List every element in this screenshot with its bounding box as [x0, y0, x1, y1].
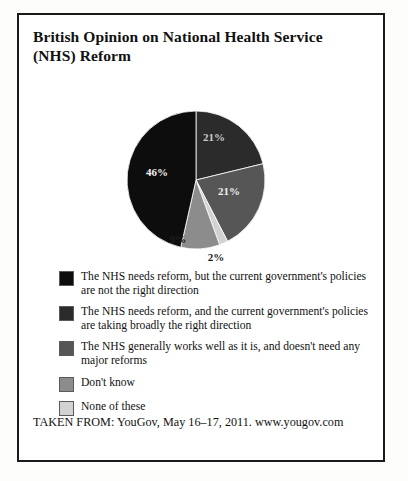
legend-swatch-4: [59, 401, 74, 416]
legend-label-3: Don't know: [81, 376, 135, 390]
pie-slice-group: [127, 111, 265, 249]
legend-swatch-1: [59, 306, 74, 321]
pie-chart-svg: 21%21%2%9%46%: [19, 85, 383, 265]
legend-item[interactable]: The NHS needs reform, and the current go…: [59, 305, 371, 332]
legend-item[interactable]: Don't know: [59, 376, 371, 392]
legend-item[interactable]: None of these: [59, 400, 371, 416]
pie-slice-value: 21%: [218, 185, 240, 197]
legend-item[interactable]: The NHS needs reform, but the current go…: [59, 270, 371, 297]
legend-label-2: The NHS generally works well as it is, a…: [81, 340, 371, 367]
legend-label-4: None of these: [81, 400, 145, 414]
legend-label-0: The NHS needs reform, but the current go…: [81, 270, 371, 297]
legend-swatch-2: [59, 341, 74, 356]
figure-frame: British Opinion on National Health Servi…: [17, 13, 385, 462]
pie-slice[interactable]: [127, 111, 196, 247]
legend-swatch-0: [59, 271, 74, 286]
page-title: British Opinion on National Health Servi…: [33, 27, 363, 65]
pie-slice-value: 2%: [208, 251, 225, 263]
pie-slice-value: 9%: [170, 233, 187, 245]
legend: The NHS needs reform, but the current go…: [59, 270, 371, 424]
source-note: TAKEN FROM: YouGov, May 16–17, 2011. www…: [33, 415, 369, 430]
pie-slice-value: 21%: [203, 131, 225, 143]
legend-swatch-3: [59, 377, 74, 392]
pie-chart: 21%21%2%9%46%: [19, 85, 383, 265]
legend-item[interactable]: The NHS generally works well as it is, a…: [59, 340, 371, 367]
pie-slice-value: 46%: [146, 166, 168, 178]
legend-label-1: The NHS needs reform, and the current go…: [81, 305, 371, 332]
